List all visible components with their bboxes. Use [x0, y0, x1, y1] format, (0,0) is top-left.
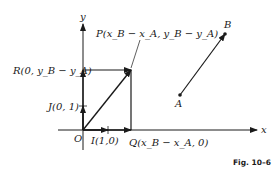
point-p-label: P(x_B − x_A, y_B − y_A) [95, 28, 218, 40]
point-b-label: B [223, 19, 231, 30]
point-a [178, 93, 182, 97]
y-axis-label: y [79, 11, 86, 22]
x-axis-label: x [261, 124, 267, 135]
point-i-label: I(1,0) [90, 135, 119, 146]
vector-ab [180, 34, 225, 95]
point-j-label: J(0, 1) [46, 101, 79, 112]
figure-caption: Fig. 10–6 [233, 158, 271, 167]
point-b [223, 32, 227, 36]
origin-label: O [74, 133, 82, 144]
p-leader-line [131, 40, 140, 68]
vector-diagram: y x O P(x_B − x_A, y_B − y_A) R(0, y_B −… [0, 0, 272, 171]
point-r-label: R(0, y_B − y_A) [12, 65, 92, 77]
point-q-label: Q(x_B − x_A, 0) [129, 137, 208, 149]
point-a-label: A [174, 98, 182, 109]
vector-op [83, 70, 131, 130]
